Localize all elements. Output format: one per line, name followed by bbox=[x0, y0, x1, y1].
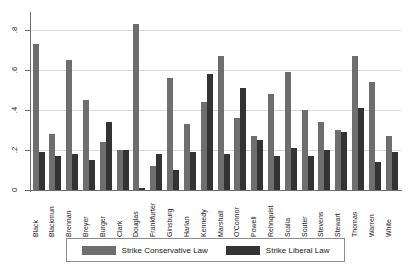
legend-swatch bbox=[82, 246, 116, 255]
bar-group bbox=[117, 14, 131, 190]
bar bbox=[341, 132, 347, 190]
x-axis-tick-label: White bbox=[386, 193, 398, 237]
x-axis-tick-label: Warren bbox=[369, 193, 381, 237]
bar bbox=[240, 88, 246, 190]
bar bbox=[324, 150, 330, 190]
x-axis-line bbox=[30, 190, 402, 191]
y-axis-tick bbox=[25, 110, 30, 111]
y-axis-tick-label: .8 bbox=[8, 25, 22, 35]
plot-area bbox=[31, 14, 401, 190]
y-axis-tick-label: .6 bbox=[8, 65, 22, 75]
bar bbox=[139, 188, 145, 190]
bar-group bbox=[268, 14, 282, 190]
x-axis-tick-label: O'Connor bbox=[234, 193, 246, 237]
y-axis-tick bbox=[25, 30, 30, 31]
bar bbox=[123, 150, 129, 190]
bar bbox=[72, 154, 78, 190]
x-axis-tick-label: Kennedy bbox=[201, 193, 213, 237]
x-axis-tick-label: Burger bbox=[100, 193, 112, 237]
legend-entry: Strike Conservative Law bbox=[82, 246, 208, 255]
x-axis-tick-label: Stevens bbox=[318, 193, 330, 237]
x-axis-tick-label: Stewart bbox=[335, 193, 347, 237]
x-axis-tick-label: Douglas bbox=[133, 193, 145, 237]
bar-group bbox=[201, 14, 215, 190]
bar-group bbox=[66, 14, 80, 190]
x-axis-tick-label: Breyer bbox=[83, 193, 95, 237]
bar-group bbox=[184, 14, 198, 190]
x-axis-tick-label: Harlan bbox=[184, 193, 196, 237]
bar-group bbox=[369, 14, 383, 190]
legend-entry: Strike Liberal Law bbox=[226, 246, 330, 255]
bar bbox=[291, 148, 297, 190]
legend-swatch bbox=[226, 246, 260, 255]
bar bbox=[392, 152, 398, 190]
bar bbox=[257, 140, 263, 190]
bar-group bbox=[167, 14, 181, 190]
y-axis-tick bbox=[25, 190, 30, 191]
x-axis-tick-label: Powell bbox=[251, 193, 263, 237]
bar bbox=[89, 160, 95, 190]
legend-label: Strike Conservative Law bbox=[122, 246, 208, 255]
x-axis-tick-label: Clark bbox=[117, 193, 129, 237]
bar bbox=[106, 122, 112, 190]
x-axis-tick-label: Marshall bbox=[218, 193, 230, 237]
bar bbox=[308, 156, 314, 190]
bar-group bbox=[386, 14, 400, 190]
bar-group bbox=[234, 14, 248, 190]
x-axis-tick-label: Black bbox=[33, 193, 45, 237]
bar-group bbox=[335, 14, 349, 190]
x-axis-tick-label: Blackmun bbox=[49, 193, 61, 237]
bar-group bbox=[33, 14, 47, 190]
bar-group bbox=[133, 14, 147, 190]
bar bbox=[156, 154, 162, 190]
x-axis-tick-label: Ginsburg bbox=[167, 193, 179, 237]
bar-group bbox=[49, 14, 63, 190]
bar-group bbox=[318, 14, 332, 190]
y-axis-tick bbox=[25, 150, 30, 151]
bar-group bbox=[100, 14, 114, 190]
bar-group bbox=[218, 14, 232, 190]
x-axis-tick-label: Thomas bbox=[352, 193, 364, 237]
x-axis-tick-label: Brennan bbox=[66, 193, 78, 237]
bar bbox=[207, 74, 213, 190]
chart-legend: Strike Conservative LawStrike Liberal La… bbox=[66, 238, 345, 262]
bar bbox=[133, 24, 139, 190]
bar bbox=[190, 152, 196, 190]
x-axis-tick-label: Rehnquist bbox=[268, 193, 280, 237]
bar-group bbox=[150, 14, 164, 190]
x-axis-tick-label: Scalia bbox=[285, 193, 297, 237]
bar bbox=[224, 154, 230, 190]
bar-group bbox=[302, 14, 316, 190]
bar-group bbox=[285, 14, 299, 190]
legend-label: Strike Liberal Law bbox=[266, 246, 330, 255]
bar bbox=[375, 162, 381, 190]
bar bbox=[173, 170, 179, 190]
bar bbox=[55, 156, 61, 190]
bar-group bbox=[352, 14, 366, 190]
y-axis-tick bbox=[25, 70, 30, 71]
bar bbox=[274, 156, 280, 190]
y-axis-tick-label: .4 bbox=[8, 105, 22, 115]
bar-chart: 0.2.4.6.8 BlackBlackmunBrennanBreyerBurg… bbox=[0, 0, 409, 269]
bar bbox=[358, 108, 364, 190]
bar-group bbox=[251, 14, 265, 190]
bar-group bbox=[83, 14, 97, 190]
x-axis-tick-label: Frankfurter bbox=[150, 193, 162, 237]
bar bbox=[39, 152, 45, 190]
y-axis-tick-label: 0 bbox=[8, 185, 22, 195]
y-axis-tick-label: .2 bbox=[8, 145, 22, 155]
x-axis-tick-label: Souter bbox=[302, 193, 314, 237]
